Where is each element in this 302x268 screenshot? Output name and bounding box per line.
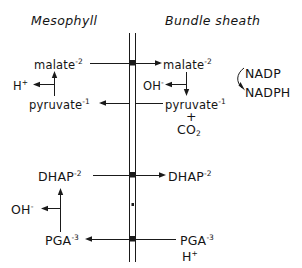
label-proton-mesophyll: H+ [13,78,28,93]
label-proton-bundle-sheath: H+ [182,249,198,264]
pga-mesophyll-charge: -3 [71,233,78,242]
malate-mesophyll-charge: -2 [75,57,82,66]
header-bundle-sheath: Bundle sheath [165,13,260,28]
arrow-malate-to-pyruvate-bundle-sheath [184,72,189,96]
c4-photosynthesis-shuttle-diagram: Mesophyll Bundle sheath malate-2 H+ pyru… [0,0,302,268]
hydroxide-bundle-sheath-charge: - [161,78,164,87]
malate-mesophyll-name: malate [34,58,75,72]
proton-mesophyll-name: H [13,79,22,93]
carbon-dioxide-name: CO [177,122,196,137]
label-dhap-bundle-sheath: DHAP-2 [168,169,211,184]
dhap-mesophyll-name: DHAP [38,169,74,184]
label-hydroxide-mesophyll: OH- [11,202,33,217]
header-mesophyll: Mesophyll [31,13,97,28]
malate-bundle-sheath-charge: -2 [204,57,211,66]
dhap-bundle-sheath-charge: -2 [204,169,211,178]
arrow-pyruvate-to-malate-mesophyll [52,71,57,96]
membrane-double-line [130,33,136,262]
hydroxide-bundle-sheath-name: OH [143,79,161,93]
label-nadp: NADP [245,66,281,81]
hydroxide-mesophyll-name: OH [11,202,31,217]
label-pga-mesophyll: PGA-3 [45,233,79,248]
transport-node-pga [130,236,136,242]
arrow-malate-to-bundle-sheath [90,60,162,66]
label-malate-mesophyll: malate-2 [34,57,83,72]
pga-bundle-sheath-name: PGA [180,233,206,248]
pyruvate-mesophyll-name: pyruvate [29,98,82,112]
arrow-pga-to-mesophyll [85,236,176,242]
transport-node-malate [130,60,136,66]
proton-mesophyll-charge: + [22,78,28,87]
malate-bundle-sheath-name: malate [163,58,204,72]
arrow-proton-release-mesophyll [33,82,54,88]
label-dhap-mesophyll: DHAP-2 [38,169,81,184]
label-nadph: NADPH [245,85,290,100]
arrow-hydroxide-release-mesophyll [41,206,60,212]
pyruvate-mesophyll-charge: -1 [82,97,89,106]
arrow-pga-to-dhap-mesophyll [58,188,63,232]
transport-node-small-marker [132,203,135,206]
arrow-nadp-to-nadph-curve [238,68,245,91]
pga-mesophyll-name: PGA [45,233,71,248]
transport-node-dhap [130,172,136,178]
label-hydroxide-bundle-sheath: OH- [143,78,164,93]
arrow-pyruvate-to-mesophyll [99,100,163,106]
dhap-bundle-sheath-name: DHAP [168,169,204,184]
arrow-hydroxide-release-bundle-sheath [165,82,186,88]
label-pga-bundle-sheath: PGA-3 [180,233,214,248]
label-carbon-dioxide: CO2 [177,122,201,138]
carbon-dioxide-subscript: 2 [196,129,201,138]
label-pyruvate-mesophyll: pyruvate-1 [29,97,90,112]
arrow-dhap-to-bundle-sheath [93,172,166,178]
dhap-mesophyll-charge: -2 [74,169,81,178]
pga-bundle-sheath-charge: -3 [206,233,213,242]
label-malate-bundle-sheath: malate-2 [163,57,212,72]
hydroxide-mesophyll-charge: - [31,202,34,211]
proton-bundle-sheath-charge: + [192,249,198,258]
proton-bundle-sheath-name: H [182,249,192,264]
pyruvate-bundle-sheath-charge: -1 [218,97,225,106]
diagram-lines-overlay [0,0,302,268]
